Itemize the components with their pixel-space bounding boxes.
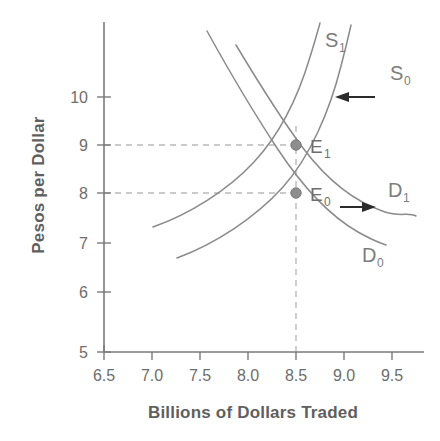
curve-label-d1-subscript: 1 (403, 191, 410, 205)
axes (104, 22, 424, 352)
equilibrium-label-e1: E (310, 136, 323, 157)
equilibrium-label-e0: E (310, 184, 323, 205)
supply-shift-arrow-head (335, 92, 349, 102)
equilibrium-label-e0-subscript: 0 (324, 195, 331, 209)
x-tick-label-8point0: 8.0 (237, 367, 259, 384)
x-tick-label-7point5: 7.5 (189, 367, 211, 384)
curve-label-s0-subscript: 0 (404, 74, 411, 88)
y-axis-title: Pesos per Dollar (29, 116, 48, 254)
curve-label-s1-subscript: 1 (339, 41, 346, 55)
y-tick-label-9: 9 (79, 137, 88, 154)
x-tick-label-6point5: 6.5 (93, 367, 115, 384)
y-tick-label-8: 8 (79, 185, 88, 202)
equilibrium-marker-e1 (291, 140, 301, 150)
shift-arrows (335, 92, 376, 212)
curve-label-d0: D (362, 244, 376, 266)
y-axis-tick-labels: 10 9 8 7 6 5 (70, 89, 88, 361)
x-tick-label-9point5: 9.5 (381, 367, 403, 384)
equilibrium-label-e1-subscript: 1 (324, 147, 331, 161)
x-tick-label-8point5: 8.5 (285, 367, 307, 384)
y-tick-label-10: 10 (70, 89, 88, 106)
y-tick-label-5: 5 (79, 344, 88, 361)
equilibrium-labels: E 1 E 0 (310, 136, 331, 209)
guide-lines (104, 126, 296, 352)
x-axis-tick-labels: 6.5 7.0 7.5 8.0 8.5 9.0 9.5 (93, 367, 403, 384)
y-tick-label-7: 7 (79, 235, 88, 252)
chart-canvas: 10 9 8 7 6 5 6.5 7.0 7.5 8.0 8.5 9.0 9.5 (0, 0, 440, 441)
x-tick-label-7point0: 7.0 (141, 367, 163, 384)
exchange-rate-supply-demand-figure: 10 9 8 7 6 5 6.5 7.0 7.5 8.0 8.5 9.0 9.5 (0, 0, 440, 441)
demand-shift-arrow-head (362, 202, 376, 212)
curve-label-s1: S (325, 29, 338, 51)
curve-label-d0-subscript: 0 (377, 256, 384, 270)
x-axis-title: Billions of Dollars Traded (148, 403, 358, 422)
curve-label-s0: S (390, 62, 403, 84)
supply-shift-arrow (335, 92, 375, 102)
y-tick-label-6: 6 (79, 284, 88, 301)
demand-shift-arrow (340, 202, 376, 212)
curves (153, 23, 416, 258)
x-tick-label-9point0: 9.0 (333, 367, 355, 384)
equilibrium-marker-e0 (291, 188, 301, 198)
curve-labels: S 1 S 0 D 1 D 0 (325, 29, 411, 270)
curve-label-d1: D (388, 179, 402, 201)
supply-curve-s0 (177, 25, 351, 258)
